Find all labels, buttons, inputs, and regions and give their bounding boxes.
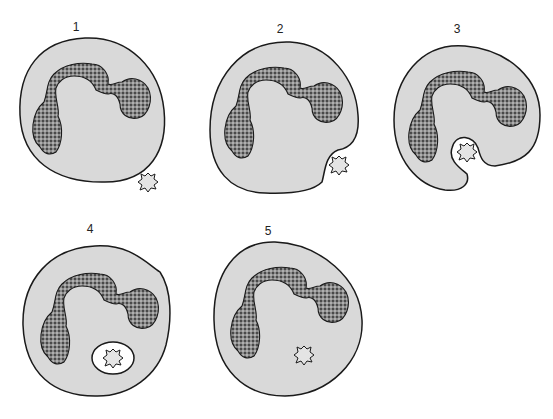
panel-label-4: 4 <box>87 222 94 236</box>
panel-4 <box>23 246 170 396</box>
particle-icon <box>294 346 314 365</box>
panel-3 <box>394 46 540 191</box>
particle-icon <box>329 156 349 175</box>
panel-label-2: 2 <box>277 22 284 36</box>
particle-icon <box>138 173 158 192</box>
particle-icon <box>103 349 123 368</box>
particle-icon <box>457 143 477 162</box>
phagocytosis-diagram <box>0 0 553 419</box>
panel-label-5: 5 <box>265 224 272 238</box>
panel-2 <box>210 42 358 193</box>
panel-label-1: 1 <box>73 20 80 34</box>
panel-label-3: 3 <box>454 22 461 36</box>
panel-5 <box>214 242 362 396</box>
panel-1 <box>20 38 165 192</box>
